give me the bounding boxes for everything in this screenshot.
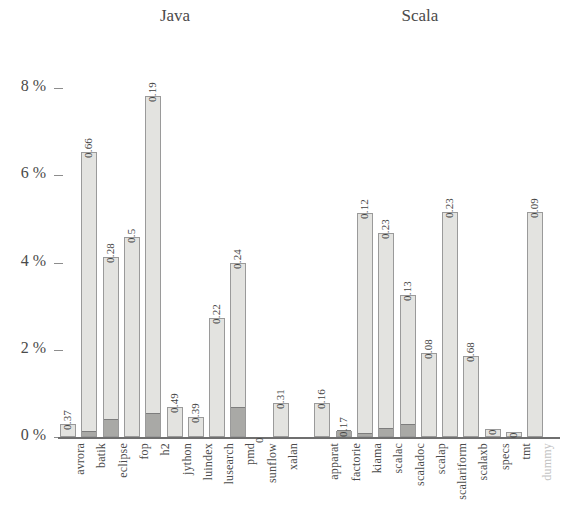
x-axis-category-label: scalaxb [476, 443, 491, 480]
y-axis-tick-label: 4 % [2, 252, 46, 270]
bar [527, 212, 543, 437]
y-axis-tick-label: 2 % [2, 339, 46, 357]
x-axis-category-label: batik [94, 443, 109, 468]
bar [357, 213, 373, 437]
x-axis-category-label: kiama [370, 443, 385, 473]
bar-value-label: 0 [486, 429, 498, 435]
bar-dark-segment [82, 431, 96, 436]
bar-value-label: 0.23 [443, 198, 455, 218]
bar-dark-segment [231, 407, 245, 436]
bar-value-label: 0.13 [401, 281, 413, 301]
x-axis-category-label: jython [180, 443, 195, 475]
bar-value-label: 0.66 [82, 138, 94, 158]
bar-value-label: 0 [507, 433, 519, 439]
y-axis-tick-label: 0 % [2, 426, 46, 444]
bar-value-label: 0.08 [422, 339, 434, 359]
group-header-java: Java [135, 6, 215, 26]
bar-value-label: 0.16 [315, 389, 327, 409]
x-axis-category-label: scalariform [455, 443, 470, 500]
bar-value-label: 0.09 [528, 198, 540, 218]
bar [124, 237, 140, 437]
x-axis-category-label: pmd [243, 443, 258, 465]
bar-value-label: 0.49 [168, 393, 180, 413]
x-axis-category-label: lusearch [222, 443, 237, 485]
x-axis-category-label: luindex [201, 443, 216, 480]
bar [145, 96, 161, 437]
bar-value-label: 0.17 [337, 417, 349, 437]
bar-value-label: 0.68 [464, 342, 476, 362]
bar-value-label: 0.22 [210, 304, 222, 324]
x-axis-category-label: dummy [540, 443, 555, 481]
y-axis-tick-label: 8 % [2, 77, 46, 95]
x-axis-category-label: scaladoc [413, 443, 428, 486]
bar-value-label: 0.12 [358, 199, 370, 219]
x-axis-category-label: scalac [391, 443, 406, 474]
bar-dark-segment [401, 424, 415, 436]
x-axis-category-label: tmt [519, 443, 534, 460]
x-axis-category-label: h2 [158, 443, 173, 455]
bar [421, 353, 437, 437]
bar [400, 295, 416, 437]
bar-value-label: 0.28 [104, 243, 116, 263]
x-axis-category-label: specs [498, 443, 513, 470]
bar-value-label: 0.31 [274, 389, 286, 409]
x-axis-category-label: sunflow [265, 443, 280, 483]
bar-value-label: 0.19 [146, 82, 158, 102]
bar [209, 318, 225, 437]
x-axis-category-label: apparat [327, 443, 342, 480]
x-axis-category-label: xalan [286, 443, 301, 470]
bar [81, 152, 97, 437]
bar-value-label: 0.39 [189, 403, 201, 423]
bar [442, 212, 458, 437]
bar-dark-segment [358, 433, 372, 436]
bar-value-label: 0 [253, 437, 265, 443]
bar-chart: Java Scala 0 %2 %4 %6 %8 % avrorabatikec… [0, 0, 562, 511]
bar-dark-segment [104, 419, 118, 436]
x-axis-category-label: scalap [434, 443, 449, 474]
y-axis-tick-label: 6 % [2, 164, 46, 182]
x-axis-category-label: eclipse [116, 443, 131, 478]
bar-value-label: 0.37 [61, 410, 73, 430]
x-axis-category-label: factorie [349, 443, 364, 481]
x-axis-category-label: avrora [73, 443, 88, 475]
bar [103, 257, 119, 437]
group-header-scala: Scala [380, 6, 460, 26]
bar-dark-segment [379, 428, 393, 436]
bar-value-label: 0.5 [125, 229, 137, 243]
bar [230, 263, 246, 437]
x-axis-category-label: fop [137, 443, 152, 460]
bar-value-label: 0.24 [231, 249, 243, 269]
bar [378, 233, 394, 437]
bar-dark-segment [146, 413, 160, 436]
bar [463, 356, 479, 437]
bar-value-label: 0.23 [379, 219, 391, 239]
